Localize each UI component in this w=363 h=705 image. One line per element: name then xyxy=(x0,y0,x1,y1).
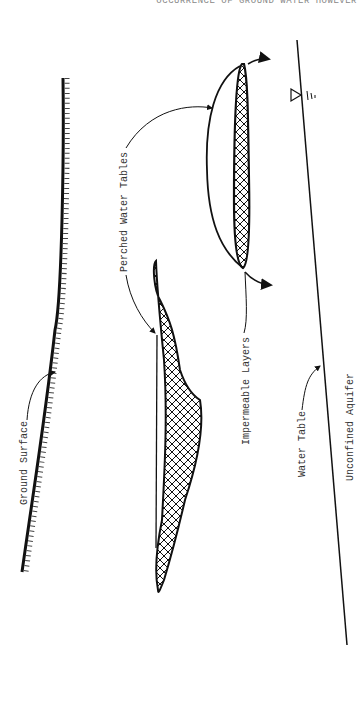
perched-leader-upper xyxy=(126,107,212,148)
water-table-leader xyxy=(302,366,320,410)
impermeable-layer-lower xyxy=(154,261,201,592)
unconfined-aquifer-label: Unconfined Aquifer xyxy=(345,373,356,481)
impermeable-leader xyxy=(244,272,246,333)
impermeable-layer-upper xyxy=(207,59,270,285)
perched-water-tables-label: Perched Water Tables xyxy=(119,152,130,272)
perched-leader-lower xyxy=(126,275,155,333)
water-table-triangle-icon xyxy=(291,89,315,101)
ground-surface-label: Ground Surface xyxy=(19,421,30,505)
groundwater-diagram xyxy=(0,0,363,705)
water-table-line xyxy=(297,40,347,645)
impermeable-layers-label: Impermeable Layers xyxy=(241,337,252,445)
water-table-label: Water Table xyxy=(297,411,308,477)
